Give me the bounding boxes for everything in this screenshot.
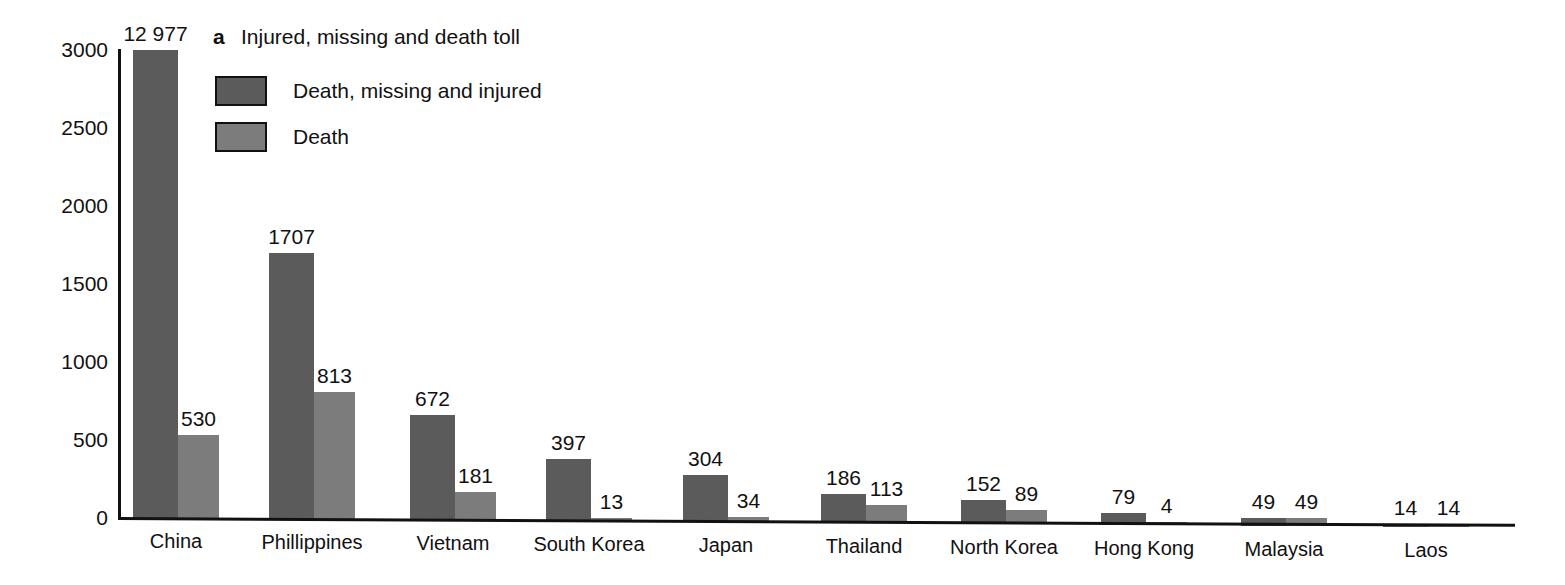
bar-death-phillippines xyxy=(314,392,355,519)
value-label-death-malaysia: 49 xyxy=(1295,490,1318,514)
x-axis-label-laos: Laos xyxy=(1404,539,1447,562)
value-label-total-south-korea: 397 xyxy=(551,431,586,455)
y-axis-tick-labels: 050010001500200025003000 xyxy=(0,0,108,585)
value-label-total-north-korea: 152 xyxy=(966,472,1001,496)
bar-total-china xyxy=(133,50,178,518)
value-label-death-phillippines: 813 xyxy=(317,364,352,388)
x-axis-label-vietnam: Vietnam xyxy=(416,532,489,555)
bar-death-vietnam xyxy=(455,492,496,520)
x-axis-label-malaysia: Malaysia xyxy=(1245,538,1324,561)
value-label-total-china: 12 977 xyxy=(123,22,187,46)
value-label-total-laos: 14 xyxy=(1394,496,1417,520)
y-axis-tick-2000: 2000 xyxy=(61,194,108,218)
value-label-total-vietnam: 672 xyxy=(415,387,450,411)
bar-chart-figure: a Injured, missing and death toll Death,… xyxy=(0,0,1565,585)
value-label-death-japan: 34 xyxy=(737,489,760,513)
value-label-total-japan: 304 xyxy=(688,447,723,471)
bar-death-china xyxy=(178,435,219,518)
bar-total-phillippines xyxy=(269,253,314,519)
bar-total-japan xyxy=(683,475,728,522)
x-axis-label-hong-kong: Hong Kong xyxy=(1094,537,1194,560)
value-label-death-laos: 14 xyxy=(1437,496,1460,520)
value-label-total-hong-kong: 79 xyxy=(1112,485,1135,509)
value-label-total-thailand: 186 xyxy=(826,466,861,490)
y-axis-tick-1000: 1000 xyxy=(61,350,108,374)
x-axis-label-japan: Japan xyxy=(699,534,754,557)
value-label-death-north-korea: 89 xyxy=(1015,482,1038,506)
x-axis-label-north-korea: North Korea xyxy=(950,536,1058,559)
x-axis-label-china: China xyxy=(150,530,202,553)
value-label-death-vietnam: 181 xyxy=(458,464,493,488)
y-axis-tick-500: 500 xyxy=(73,428,108,452)
x-axis-label-south-korea: South Korea xyxy=(533,533,644,556)
bar-total-vietnam xyxy=(410,415,455,520)
value-label-total-phillippines: 1707 xyxy=(268,225,315,249)
y-axis-tick-3000: 3000 xyxy=(61,38,108,62)
y-axis-tick-1500: 1500 xyxy=(61,272,108,296)
bar-total-thailand xyxy=(821,494,866,523)
value-label-death-thailand: 113 xyxy=(870,477,903,501)
x-axis-label-thailand: Thailand xyxy=(826,535,903,558)
x-axis-label-phillippines: Phillippines xyxy=(261,531,362,554)
value-label-death-south-korea: 13 xyxy=(600,490,623,514)
y-axis-tick-2500: 2500 xyxy=(61,116,108,140)
bar-total-south-korea xyxy=(546,459,591,521)
value-label-death-hong-kong: 4 xyxy=(1161,494,1173,518)
value-label-total-malaysia: 49 xyxy=(1252,490,1275,514)
y-axis-tick-0: 0 xyxy=(96,506,108,530)
value-label-death-china: 530 xyxy=(181,407,216,431)
plot-area: 12 977530China1707813Phillippines672181V… xyxy=(121,0,1515,585)
